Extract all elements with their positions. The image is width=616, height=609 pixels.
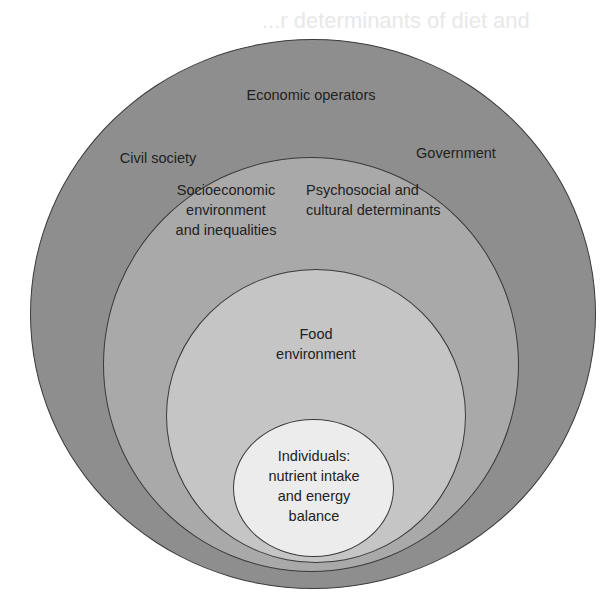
label-individuals: Individuals: nutrient intake and energy … bbox=[250, 446, 378, 526]
label-socioeconomic-environment: Socioeconomic environment and inequaliti… bbox=[164, 180, 288, 240]
label-line: and energy bbox=[250, 486, 378, 506]
label-line: nutrient intake bbox=[250, 466, 378, 486]
label-line: balance bbox=[250, 506, 378, 526]
background-bleed-text-1: ...r determinants of diet and bbox=[262, 8, 530, 34]
label-civil-society: Civil society bbox=[112, 148, 204, 168]
label-line: cultural determinants bbox=[306, 200, 462, 220]
label-government: Government bbox=[408, 143, 504, 163]
label-line: and inequalities bbox=[164, 220, 288, 240]
label-line: environment bbox=[254, 344, 378, 364]
label-line: Socioeconomic bbox=[164, 180, 288, 200]
label-line: environment bbox=[164, 200, 288, 220]
label-line: Food bbox=[254, 324, 378, 344]
label-line: Psychosocial and bbox=[306, 180, 462, 200]
label-economic-operators: Economic operators bbox=[240, 85, 382, 105]
label-psychosocial-determinants: Psychosocial and cultural determinants bbox=[306, 180, 462, 220]
label-food-environment: Food environment bbox=[254, 324, 378, 364]
label-line: Individuals: bbox=[250, 446, 378, 466]
